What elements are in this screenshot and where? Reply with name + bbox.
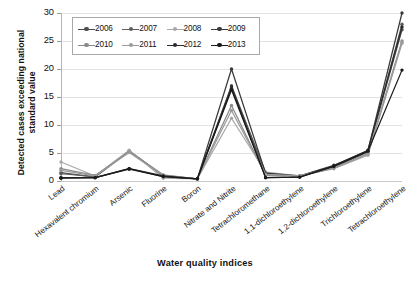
data-point	[59, 160, 62, 163]
data-point	[93, 176, 96, 179]
y-axis-tick-label: 15	[14, 92, 54, 101]
data-point	[230, 67, 233, 70]
x-axis-title: Water quality indices	[0, 258, 410, 268]
legend-marker-icon	[211, 24, 228, 34]
legend-label: 2009	[228, 25, 246, 33]
y-axis-tick-label: 0	[14, 176, 54, 185]
y-axis-tick-label: 30	[14, 8, 54, 17]
legend-item-2008[interactable]: 2008	[167, 24, 211, 34]
legend-label: 2006	[95, 25, 113, 33]
legend-row: 2006200720082009	[78, 21, 255, 37]
data-point	[128, 151, 131, 154]
legend-item-2009[interactable]: 2009	[211, 24, 255, 34]
legend-item-2007[interactable]: 2007	[122, 24, 166, 34]
data-point	[264, 176, 267, 179]
data-point	[400, 40, 403, 43]
data-point	[59, 172, 62, 175]
legend-marker-icon	[122, 40, 139, 50]
x-axis-label-text: 1,1-dichloroethylene	[242, 184, 305, 236]
legend-marker-icon	[211, 40, 228, 50]
legend-marker-icon	[78, 40, 95, 50]
y-axis-tick-label: 20	[14, 64, 54, 73]
legend-label: 2008	[184, 25, 202, 33]
x-axis-label-text: Lead	[47, 184, 67, 202]
x-axis-label-text: Arsenic	[108, 184, 135, 208]
data-point	[400, 68, 403, 71]
legend-marker-icon	[167, 24, 184, 34]
data-point	[230, 109, 233, 112]
legend-label: 2011	[139, 41, 156, 49]
x-axis-label-text: Tetrachloroethylene	[346, 184, 407, 235]
data-point	[298, 175, 301, 178]
legend-marker-icon	[122, 24, 139, 34]
chart-container: Detected cases exceeding national standa…	[0, 0, 410, 282]
legend-item-2013[interactable]: 2013	[211, 40, 255, 50]
x-axis-label-text: 1,2-dichloroethylene	[276, 184, 339, 236]
legend-label: 2012	[184, 41, 202, 49]
legend-item-2012[interactable]: 2012	[167, 40, 211, 50]
legend-item-2006[interactable]: 2006	[78, 24, 122, 34]
data-point	[400, 11, 403, 14]
data-point	[230, 88, 233, 91]
x-axis-label-text: Fluorine	[140, 184, 169, 209]
legend-marker-icon	[167, 40, 184, 50]
data-point	[59, 177, 62, 180]
legend-label: 2007	[139, 25, 157, 33]
data-point	[400, 25, 403, 28]
legend-item-2010[interactable]: 2010	[78, 40, 122, 50]
y-axis-tick-label: 10	[14, 120, 54, 129]
data-point	[162, 175, 165, 178]
chart-legend[interactable]: 20062007200820092010201120122013	[72, 17, 260, 55]
y-axis-tick-label: 25	[14, 36, 54, 45]
legend-row: 2010201120122013	[78, 37, 255, 53]
data-point	[366, 150, 369, 153]
x-axis-label-text: Hexavalent chromium	[33, 184, 100, 239]
data-point	[196, 177, 199, 180]
data-point	[59, 169, 62, 172]
legend-label: 2013	[228, 41, 246, 49]
data-point	[230, 104, 233, 107]
legend-item-2011[interactable]: 2011	[122, 40, 166, 50]
legend-label: 2010	[95, 41, 113, 49]
x-axis-label-text: Boron	[180, 184, 203, 204]
legend-marker-icon	[78, 24, 95, 34]
data-point	[230, 117, 233, 120]
y-axis-tick-label: 5	[14, 148, 54, 157]
x-axis-label-text: Tetrachloromethane	[209, 184, 271, 235]
